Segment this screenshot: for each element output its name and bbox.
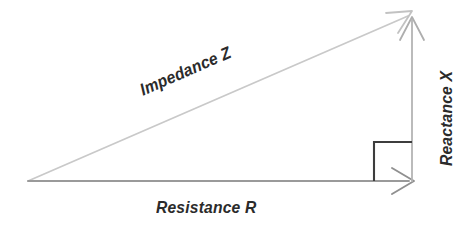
impedance-vector <box>28 11 412 181</box>
impedance-triangle-diagram: Impedance Z Resistance R Reactance X <box>0 0 474 238</box>
impedance-line <box>28 16 408 181</box>
resistance-vector <box>28 168 414 194</box>
reactance-label: Reactance X <box>437 71 457 166</box>
impedance-arrowhead-icon <box>386 11 412 33</box>
right-angle-marker-icon <box>374 142 412 181</box>
resistance-label: Resistance R <box>156 198 256 218</box>
reactance-vector <box>400 17 424 181</box>
